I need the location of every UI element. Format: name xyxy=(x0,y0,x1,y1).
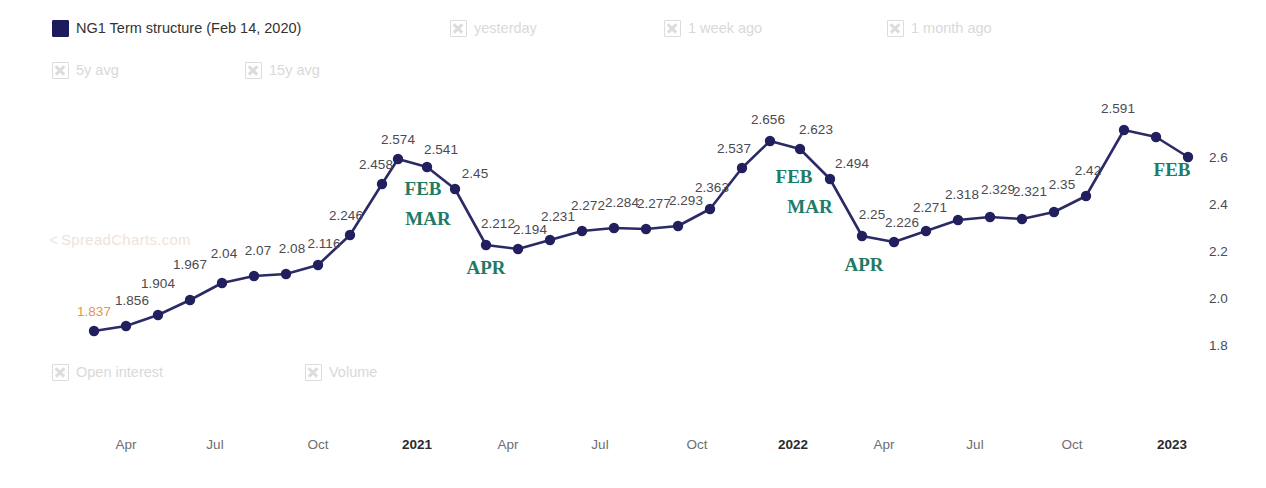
data-point-label: 2.42 xyxy=(1075,163,1101,178)
data-point[interactable] xyxy=(765,136,775,146)
data-point-label: 2.246 xyxy=(329,208,363,223)
data-point-label: 2.231 xyxy=(541,209,575,224)
data-point[interactable] xyxy=(857,231,867,241)
data-point-label: 2.272 xyxy=(571,198,605,213)
y-axis-tick-label: 2.6 xyxy=(1209,150,1228,165)
data-point[interactable] xyxy=(450,184,460,194)
data-point-label: 2.04 xyxy=(211,246,237,261)
data-point[interactable] xyxy=(641,224,651,234)
data-point-label: 2.226 xyxy=(885,215,919,230)
data-point-label: 2.537 xyxy=(717,141,751,156)
data-point[interactable] xyxy=(121,321,131,331)
data-point-label: 2.116 xyxy=(308,236,341,251)
data-point[interactable] xyxy=(985,212,995,222)
data-point-label: 2.45 xyxy=(462,166,488,181)
chart-page: NG1 Term structure (Feb 14, 2020)yesterd… xyxy=(0,0,1266,488)
data-point[interactable] xyxy=(1049,207,1059,217)
data-point[interactable] xyxy=(1151,132,1161,142)
x-axis-tick-label: 2021 xyxy=(402,437,432,452)
data-point[interactable] xyxy=(513,244,523,254)
data-point-label: 2.35 xyxy=(1049,177,1075,192)
data-point[interactable] xyxy=(795,144,805,154)
month-annotation-feb: FEB xyxy=(1154,159,1191,181)
data-point[interactable] xyxy=(422,162,432,172)
data-point[interactable] xyxy=(345,230,355,240)
data-point-label: 2.541 xyxy=(424,142,458,157)
month-annotation-feb: FEB xyxy=(405,178,442,200)
data-point-label: 2.293 xyxy=(669,193,703,208)
x-axis-tick-label: Apr xyxy=(497,437,518,452)
y-axis-tick-label: 2.0 xyxy=(1209,291,1228,306)
data-point[interactable] xyxy=(481,240,491,250)
data-point-label: 2.212 xyxy=(481,216,515,231)
data-point-label: 2.07 xyxy=(245,243,271,258)
data-point-label: 2.623 xyxy=(799,122,833,137)
line-chart-canvas xyxy=(0,0,1266,488)
series-points xyxy=(89,125,1193,336)
month-annotation-mar: MAR xyxy=(405,208,450,230)
x-axis-tick-label: Jul xyxy=(966,437,983,452)
data-point-label: 1.904 xyxy=(141,276,175,291)
y-axis-tick-label: 2.4 xyxy=(1209,197,1228,212)
data-point[interactable] xyxy=(377,179,387,189)
x-axis-tick-label: Jul xyxy=(591,437,608,452)
data-point-label: 2.494 xyxy=(835,156,869,171)
data-point[interactable] xyxy=(313,260,323,270)
data-point[interactable] xyxy=(217,278,227,288)
month-annotation-mar: MAR xyxy=(787,196,832,218)
month-annotation-feb: FEB xyxy=(776,166,813,188)
month-annotation-apr: APR xyxy=(466,257,505,279)
data-point-label: 2.329 xyxy=(981,182,1015,197)
series-line xyxy=(94,130,1188,331)
data-point[interactable] xyxy=(1017,214,1027,224)
x-axis-tick-label: Oct xyxy=(686,437,707,452)
data-point-label: 2.574 xyxy=(381,132,415,147)
x-axis-tick-label: Jul xyxy=(206,437,223,452)
data-point-label: 1.856 xyxy=(115,293,149,308)
y-axis-tick-label: 1.8 xyxy=(1209,338,1228,353)
data-point[interactable] xyxy=(185,295,195,305)
data-point[interactable] xyxy=(673,221,683,231)
data-point-label: 2.656 xyxy=(751,112,785,127)
data-point[interactable] xyxy=(705,204,715,214)
data-point[interactable] xyxy=(281,269,291,279)
data-point[interactable] xyxy=(737,163,747,173)
data-point[interactable] xyxy=(609,223,619,233)
data-point-label: 2.321 xyxy=(1013,184,1047,199)
data-point-label: 2.08 xyxy=(279,241,305,256)
data-point-label: 1.967 xyxy=(173,257,207,272)
x-axis-tick-label: Oct xyxy=(1061,437,1082,452)
x-axis-tick-label: 2022 xyxy=(778,437,808,452)
data-point[interactable] xyxy=(249,271,259,281)
data-point[interactable] xyxy=(1081,191,1091,201)
data-point[interactable] xyxy=(89,326,99,336)
x-axis-tick-label: Apr xyxy=(115,437,136,452)
data-point[interactable] xyxy=(953,215,963,225)
x-axis-tick-label: Apr xyxy=(873,437,894,452)
data-point[interactable] xyxy=(1119,125,1129,135)
data-point-label: 2.271 xyxy=(913,200,947,215)
data-point-label: 2.591 xyxy=(1101,101,1135,116)
y-axis-tick-label: 2.2 xyxy=(1209,244,1228,259)
x-axis-tick-label: 2023 xyxy=(1157,437,1187,452)
data-point-label: 2.25 xyxy=(859,207,885,222)
data-point[interactable] xyxy=(393,154,403,164)
data-point[interactable] xyxy=(921,226,931,236)
data-point-label: 2.458 xyxy=(359,157,393,172)
data-point-label: 2.284 xyxy=(605,195,639,210)
data-point-label: 1.837 xyxy=(77,304,111,319)
data-point-label: 2.277 xyxy=(637,196,671,211)
data-point[interactable] xyxy=(889,237,899,247)
data-point[interactable] xyxy=(153,310,163,320)
x-axis-tick-label: Oct xyxy=(307,437,328,452)
data-point[interactable] xyxy=(825,174,835,184)
data-point-label: 2.318 xyxy=(945,187,979,202)
data-point[interactable] xyxy=(577,226,587,236)
data-point-label: 2.363 xyxy=(695,180,729,195)
month-annotation-apr: APR xyxy=(844,254,883,276)
data-point-label: 2.194 xyxy=(513,222,547,237)
